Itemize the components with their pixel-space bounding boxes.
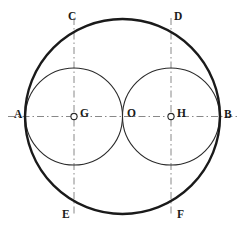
point-label-G: G xyxy=(80,108,89,120)
point-label-H: H xyxy=(177,108,186,120)
geometry-diagram: A B C D E F G H O xyxy=(0,0,247,232)
center-marker-ring-H xyxy=(168,113,174,119)
point-label-O: O xyxy=(127,108,136,120)
diagram-canvas xyxy=(0,0,247,232)
point-label-F: F xyxy=(177,209,184,221)
center-marker-H xyxy=(168,113,174,119)
point-label-A: A xyxy=(14,109,22,121)
center-marker-G xyxy=(71,113,77,119)
point-label-B: B xyxy=(224,109,232,121)
center-marker-ring-G xyxy=(71,113,77,119)
point-label-E: E xyxy=(62,209,70,221)
point-label-C: C xyxy=(68,11,76,23)
point-label-D: D xyxy=(174,11,182,23)
